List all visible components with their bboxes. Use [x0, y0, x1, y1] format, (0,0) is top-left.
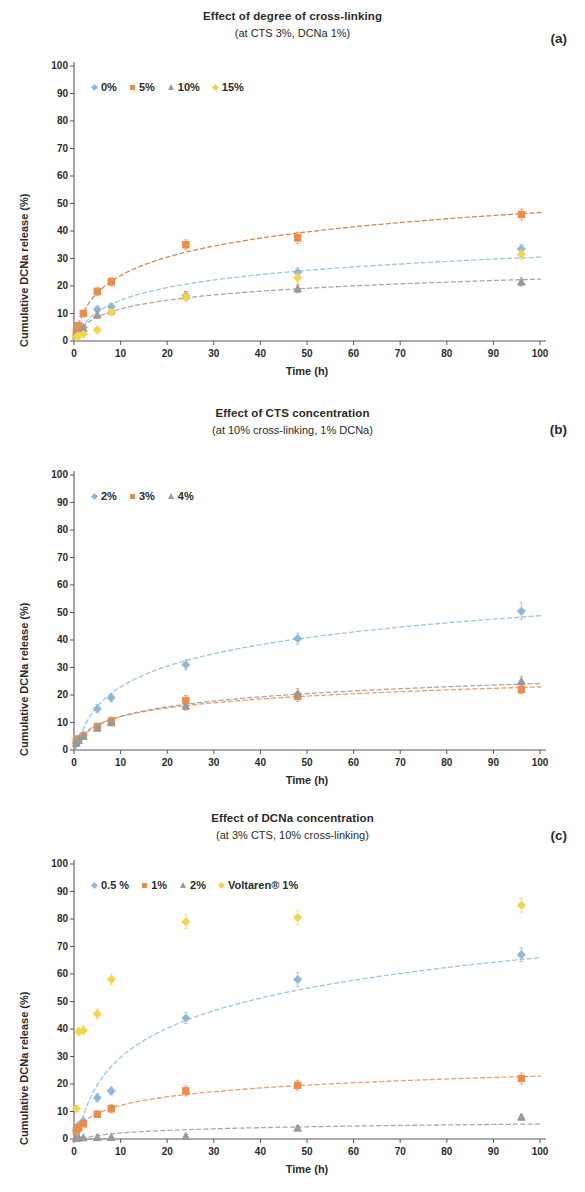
x-tick-label: 90 [477, 348, 509, 359]
panel-a-subtitle: (at CTS 3%, DCNa 1%) [0, 27, 585, 39]
legend-item[interactable]: 2% [180, 879, 206, 891]
legend-label: 10% [178, 81, 200, 93]
legend-marker-diamond-icon [91, 83, 98, 90]
x-tick-label: 60 [338, 757, 370, 768]
x-tick-label: 0 [58, 1146, 90, 1157]
legend-label: 15% [222, 81, 244, 93]
legend-label: Voltaren® 1% [228, 879, 298, 891]
x-tick-label: 30 [198, 348, 230, 359]
legend-marker-square-icon [142, 883, 147, 888]
y-tick-label: 40 [36, 1023, 68, 1034]
y-tick-label: 30 [36, 1051, 68, 1062]
y-tick-label: 40 [36, 634, 68, 645]
y-tick-label: 100 [36, 469, 68, 480]
panel-c: Effect of DCNa concentration (at 3% CTS,… [0, 794, 585, 1191]
legend-item[interactable]: 10% [168, 81, 200, 93]
x-tick-label: 20 [151, 757, 183, 768]
legend-item[interactable]: 0.5 % [92, 879, 129, 891]
x-tick-label: 10 [105, 348, 137, 359]
legend-marker-diamond-icon [212, 83, 219, 90]
panel-b-label: (b) [550, 422, 567, 437]
y-tick-label: 100 [36, 858, 68, 869]
x-tick-label: 50 [291, 1146, 323, 1157]
panel-a: Effect of degree of cross-linking (at CT… [0, 0, 585, 397]
panel-a-label: (a) [551, 31, 568, 46]
x-tick-label: 50 [291, 757, 323, 768]
panel-b-subtitle: (at 10% cross-linking, 1% DCNa) [0, 424, 585, 436]
panel-b: Effect of CTS concentration (at 10% cros… [0, 397, 585, 794]
legend-marker-diamond-icon [218, 881, 225, 888]
legend-label: 0.5 % [101, 879, 129, 891]
y-tick-label: 90 [36, 886, 68, 897]
x-tick-label: 20 [151, 348, 183, 359]
x-tick-label: 40 [244, 348, 276, 359]
y-axis-label: Cumulative DCNa release (%) [18, 992, 30, 1145]
y-tick-label: 50 [36, 996, 68, 1007]
x-tick-label: 50 [291, 348, 323, 359]
x-tick-label: 90 [477, 757, 509, 768]
y-tick-label: 80 [36, 913, 68, 924]
x-tick-label: 10 [105, 757, 137, 768]
y-tick-label: 30 [36, 662, 68, 673]
y-tick-label: 70 [36, 941, 68, 952]
panel-a-plot: Cumulative DCNa release (%)0102030405060… [0, 48, 585, 358]
x-tick-label: 10 [105, 1146, 137, 1157]
y-axis-label: Cumulative DCNa release (%) [18, 603, 30, 756]
x-axis-label: Time (h) [74, 365, 540, 377]
y-tick-label: 10 [36, 1106, 68, 1117]
legend-marker-triangle-icon [180, 882, 186, 888]
legend-label: 5% [139, 81, 155, 93]
y-tick-label: 90 [36, 497, 68, 508]
y-tick-label: 60 [36, 968, 68, 979]
chart-legend: 0%5%10%15% [92, 81, 244, 93]
y-tick-label: 10 [36, 717, 68, 728]
legend-item[interactable]: Voltaren® 1% [219, 879, 298, 891]
y-tick-label: 20 [36, 1078, 68, 1089]
y-tick-label: 0 [36, 335, 68, 346]
x-tick-label: 70 [384, 348, 416, 359]
legend-item[interactable]: 0% [92, 81, 117, 93]
y-tick-label: 0 [36, 744, 68, 755]
x-tick-label: 20 [151, 1146, 183, 1157]
x-tick-label: 40 [244, 757, 276, 768]
y-tick-label: 30 [36, 253, 68, 264]
x-axis-label: Time (h) [74, 774, 540, 786]
legend-marker-square-icon [130, 494, 135, 499]
x-tick-label: 80 [431, 1146, 463, 1157]
chart-legend: 2%3%4% [92, 490, 194, 502]
x-tick-label: 100 [524, 757, 556, 768]
y-tick-label: 70 [36, 552, 68, 563]
legend-label: 2% [190, 879, 206, 891]
y-axis-label: Cumulative DCNa release (%) [18, 194, 30, 347]
panel-b-title: Effect of CTS concentration [0, 407, 585, 419]
x-tick-label: 100 [524, 348, 556, 359]
chart-legend: 0.5 %1%2%Voltaren® 1% [92, 879, 298, 891]
panel-c-title: Effect of DCNa concentration [0, 812, 585, 824]
legend-label: 4% [178, 490, 194, 502]
panel-a-title: Effect of degree of cross-linking [0, 10, 585, 22]
x-tick-label: 30 [198, 757, 230, 768]
x-tick-label: 80 [431, 757, 463, 768]
y-tick-label: 80 [36, 524, 68, 535]
y-tick-label: 20 [36, 280, 68, 291]
y-tick-label: 40 [36, 225, 68, 236]
y-tick-label: 90 [36, 88, 68, 99]
legend-item[interactable]: 4% [168, 490, 194, 502]
legend-item[interactable]: 3% [130, 490, 155, 502]
legend-item[interactable]: 1% [142, 879, 167, 891]
y-tick-label: 20 [36, 689, 68, 700]
legend-marker-triangle-icon [168, 84, 174, 90]
legend-label: 3% [139, 490, 155, 502]
y-tick-label: 60 [36, 579, 68, 590]
y-tick-label: 50 [36, 607, 68, 618]
panel-c-subtitle: (at 3% CTS, 10% cross-linking) [0, 829, 585, 841]
x-tick-label: 60 [338, 348, 370, 359]
legend-item[interactable]: 15% [213, 81, 244, 93]
legend-label: 1% [151, 879, 167, 891]
legend-item[interactable]: 5% [130, 81, 155, 93]
legend-label: 2% [101, 490, 117, 502]
panel-c-label: (c) [551, 828, 568, 843]
legend-item[interactable]: 2% [92, 490, 117, 502]
panel-c-plot: Cumulative DCNa release (%)0102030405060… [0, 846, 585, 1156]
y-tick-label: 80 [36, 115, 68, 126]
